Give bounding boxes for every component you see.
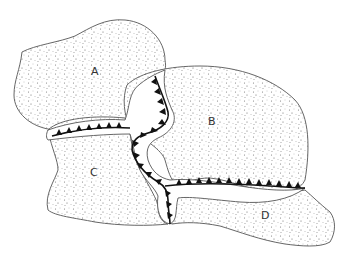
plate-label-d: D xyxy=(261,209,269,222)
plate-label-c: C xyxy=(90,166,98,179)
plate-diagram: A B C D xyxy=(0,0,354,262)
plate-label-b: B xyxy=(208,115,216,128)
plate-label-a: A xyxy=(91,65,99,78)
